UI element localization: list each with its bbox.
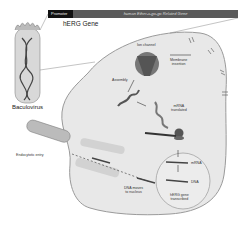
- herg-gene-segment: human Ether-a-go-go Related Gene: [73, 10, 238, 18]
- membrane-insertion-label: Membraneinsertion: [170, 58, 187, 66]
- dna-moves-label: DNA movesto nucleus: [124, 186, 143, 194]
- mrna-label: mRNA: [191, 161, 202, 165]
- assembly-label: Assembly: [112, 78, 128, 82]
- endocytotic-entry-label: Endocytotic entry: [16, 153, 44, 157]
- ion-channel-structure: [135, 52, 159, 76]
- dna-label: DNA: [191, 180, 199, 184]
- baculovirus-label: Baculovirus: [12, 104, 43, 110]
- ion-channel-label: Ion channel: [137, 43, 156, 47]
- diagram-canvas: [0, 0, 249, 234]
- mrna-translated-label: mRNAtranslated: [171, 104, 187, 112]
- transcribed-label: hERG genetranscribed: [170, 193, 189, 201]
- herg-gene-bar: Promoter human Ether-a-go-go Related Gen…: [48, 10, 238, 18]
- herg-gene-title: hERG Gene: [63, 20, 98, 27]
- promoter-segment: Promoter: [48, 10, 73, 18]
